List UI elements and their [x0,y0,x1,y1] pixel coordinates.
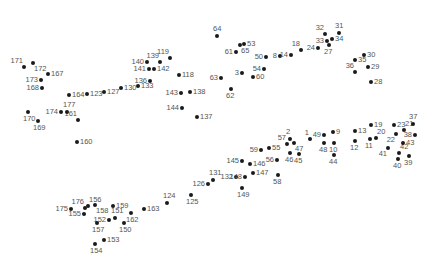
dot-marker[interactable] [289,53,293,57]
dot-marker[interactable] [259,148,263,152]
dot-number-label: 29 [371,63,379,71]
dot-number-label: 147 [256,169,269,177]
dot-marker[interactable] [206,182,210,186]
dot-marker[interactable] [111,204,115,208]
dot-marker[interactable] [299,48,303,52]
dot-number-label: 148 [229,173,242,181]
dot-marker[interactable] [107,218,111,222]
dot-marker[interactable] [264,55,268,59]
dot-marker[interactable] [180,106,184,110]
dot-marker[interactable] [142,207,146,211]
dot-marker[interactable] [148,79,152,83]
dot-number-label: 62 [226,92,234,100]
dot-marker[interactable] [285,142,289,146]
dot-marker[interactable] [392,123,396,127]
dot-marker[interactable] [168,56,172,60]
dot-marker[interactable] [75,140,79,144]
dot-marker[interactable] [251,75,255,79]
dot-marker[interactable] [179,91,183,95]
dot-number-label: 56 [266,156,274,164]
dot-number-label: 55 [272,144,280,152]
dot-number-label: 37 [409,113,417,121]
dot-number-label: 141 [133,65,146,73]
dot-number-label: 143 [165,89,178,97]
dot-marker[interactable] [288,137,292,141]
dot-marker[interactable] [331,130,335,134]
dot-number-label: 3 [235,69,239,77]
dot-marker[interactable] [267,146,271,150]
dot-marker[interactable] [83,206,87,210]
dot-marker[interactable] [330,37,334,41]
dot-marker[interactable] [22,65,26,69]
dot-number-label: 33 [316,37,324,45]
dot-number-label: 139 [146,52,159,60]
dot-marker[interactable] [308,137,312,141]
dot-marker[interactable] [147,67,151,71]
dot-marker[interactable] [275,158,279,162]
dot-marker[interactable] [369,80,373,84]
dot-marker[interactable] [322,133,326,137]
dot-number-label: 63 [210,74,218,82]
dot-marker[interactable] [397,151,401,155]
dot-marker[interactable] [413,133,417,137]
dot-marker[interactable] [262,67,266,71]
dot-number-label: 57 [278,134,286,142]
dot-number-label: 142 [157,65,170,73]
dot-number-label: 46 [285,156,293,164]
dot-marker[interactable] [369,123,373,127]
dot-marker[interactable] [76,118,80,122]
dot-marker[interactable] [85,92,89,96]
dot-number-label: 118 [182,71,194,79]
dot-marker[interactable] [353,70,357,74]
dot-marker[interactable] [243,175,247,179]
dot-marker[interactable] [46,72,50,76]
dot-marker[interactable] [102,238,106,242]
dot-marker[interactable] [119,86,123,90]
dot-number-label: 130 [124,84,137,92]
dot-marker[interactable] [165,201,169,205]
dot-number-label: 8 [273,52,277,60]
dot-marker[interactable] [411,122,415,126]
dot-marker[interactable] [234,50,238,54]
dot-marker[interactable] [374,136,378,140]
dot-marker[interactable] [219,76,223,80]
dot-marker[interactable] [188,90,192,94]
dot-marker[interactable] [152,67,156,71]
dot-number-label: 164 [72,91,85,99]
dot-marker[interactable] [59,110,63,114]
dot-marker[interactable] [211,178,215,182]
dot-marker[interactable] [69,207,73,211]
dot-marker[interactable] [240,71,244,75]
dot-marker[interactable] [102,90,106,94]
dot-marker[interactable] [248,162,252,166]
dot-number-label: 58 [273,178,281,186]
dot-marker[interactable] [40,86,44,90]
dot-number-label: 27 [324,48,332,56]
dot-marker[interactable] [67,93,71,97]
dot-marker[interactable] [353,129,357,133]
dot-marker[interactable] [251,171,255,175]
dot-puzzle-board: 1238910111213141819202122232427282930313… [0,0,433,266]
dot-marker[interactable] [195,115,199,119]
dot-marker[interactable] [316,46,320,50]
dot-number-label: 144 [166,104,179,112]
dot-marker[interactable] [177,73,181,77]
dot-marker[interactable] [82,212,86,216]
dot-number-label: 177 [63,101,76,109]
dot-marker[interactable] [325,39,329,43]
dot-marker[interactable] [39,78,43,82]
dot-number-label: 48 [319,146,327,154]
dot-number-label: 136 [134,77,147,85]
dot-marker[interactable] [366,65,370,69]
dot-number-label: 2 [286,128,290,136]
dot-number-label: 137 [200,113,213,121]
dot-number-label: 43 [406,139,414,147]
dot-number-label: 31 [335,22,343,30]
dot-number-label: 13 [358,127,366,135]
dot-marker[interactable] [401,141,405,145]
dot-number-label: 39 [404,159,412,167]
dot-marker[interactable] [113,216,117,220]
dot-marker[interactable] [215,34,219,38]
dot-marker[interactable] [65,110,69,114]
dot-marker[interactable] [240,159,244,163]
